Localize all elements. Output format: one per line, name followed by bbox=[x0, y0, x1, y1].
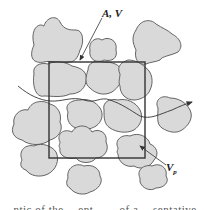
figure-caption-clipped: …ntic of the …ent…… of a …sentative …lu… bbox=[0, 203, 204, 210]
grain bbox=[86, 61, 122, 94]
grain bbox=[12, 102, 61, 145]
label-area-volume: A, V bbox=[102, 8, 122, 19]
grain bbox=[33, 62, 86, 97]
grain bbox=[90, 38, 117, 61]
grain bbox=[104, 99, 142, 132]
grain bbox=[32, 18, 83, 63]
grains bbox=[12, 18, 191, 194]
grain bbox=[21, 144, 58, 176]
label-pore-volume: Vp bbox=[166, 162, 177, 176]
porous-medium-diagram bbox=[0, 0, 204, 210]
caption-text: …ntic of the …ent…… of a …sentative …lu… bbox=[2, 203, 204, 210]
grain bbox=[133, 21, 181, 65]
grain bbox=[157, 97, 191, 132]
label-pore-volume-sub: p bbox=[173, 168, 177, 176]
grain bbox=[67, 165, 102, 194]
grain bbox=[139, 165, 167, 190]
grain bbox=[67, 99, 102, 129]
grain bbox=[59, 126, 107, 163]
grain bbox=[117, 134, 157, 168]
grain bbox=[119, 60, 152, 100]
